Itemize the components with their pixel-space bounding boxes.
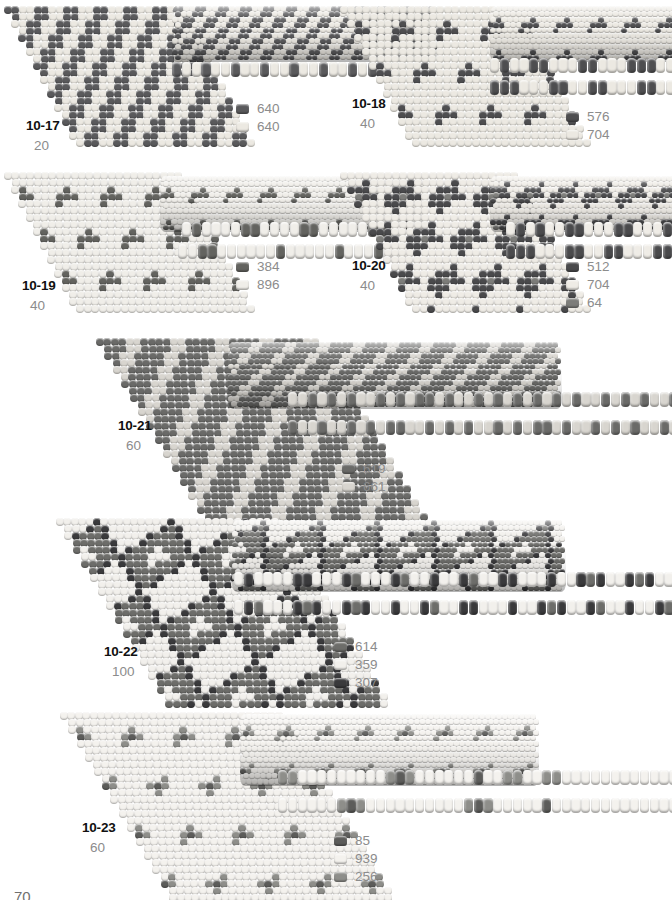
- sequence-bead: [558, 80, 567, 95]
- legend-color-swatch: [566, 280, 579, 290]
- bead-sequence-strip-10-18-0: [490, 58, 672, 73]
- bead-row: [56, 616, 411, 623]
- sequence-bead: [627, 80, 636, 95]
- bead: [217, 139, 225, 147]
- sequence-bead: [601, 798, 610, 813]
- sequence-bead: [578, 80, 587, 95]
- sequence-bead: [529, 58, 538, 73]
- sequence-bead: [425, 770, 434, 785]
- sequence-bead: [545, 244, 554, 259]
- bead-row: [96, 464, 447, 471]
- legend-row: 614: [334, 638, 378, 656]
- sequence-bead: [542, 770, 551, 785]
- legend-10-21: 619661: [342, 460, 386, 496]
- bead-sequence-strip-10-22-0: [234, 572, 672, 587]
- legend-color-swatch: [334, 872, 347, 882]
- sequence-bead: [329, 222, 338, 237]
- sequence-bead: [611, 420, 620, 435]
- sequence-bead: [273, 600, 282, 615]
- legend-color-swatch: [566, 262, 579, 272]
- sequence-bead: [503, 392, 512, 407]
- sequence-bead: [643, 222, 652, 237]
- tube-bead-row: [232, 563, 566, 568]
- sequence-bead: [260, 222, 269, 237]
- sequence-bead: [351, 572, 360, 587]
- sequence-bead: [410, 600, 419, 615]
- sequence-bead: [617, 58, 626, 73]
- sequence-bead: [234, 600, 243, 615]
- sequence-bead: [302, 572, 311, 587]
- sequence-bead: [286, 244, 295, 259]
- tube-bead-row: [240, 757, 539, 762]
- legend-row: 619: [342, 460, 386, 478]
- sequence-bead: [527, 600, 536, 615]
- legend-row: 704: [566, 126, 610, 144]
- sequence-bead: [361, 572, 370, 587]
- bead: [384, 894, 392, 900]
- sequence-bead: [288, 420, 297, 435]
- sequence-bead: [198, 244, 207, 259]
- sequence-bead: [500, 80, 509, 95]
- sequence-bead: [623, 244, 632, 259]
- sequence-bead: [630, 420, 639, 435]
- legend-color-swatch: [566, 112, 579, 122]
- legend-bead-count: 896: [257, 278, 280, 292]
- sequence-bead: [581, 392, 590, 407]
- legend-color-swatch: [334, 836, 347, 846]
- sequence-bead: [266, 244, 275, 259]
- sequence-bead: [356, 392, 365, 407]
- sequence-bead: [415, 392, 424, 407]
- sequence-bead: [366, 798, 375, 813]
- sequence-bead: [617, 80, 626, 95]
- sequence-bead: [361, 600, 370, 615]
- sequence-bead: [523, 798, 532, 813]
- sequence-bead: [415, 770, 424, 785]
- sequence-bead: [342, 600, 351, 615]
- bead-row: [4, 90, 272, 97]
- sequence-bead: [552, 392, 561, 407]
- sequence-bead: [611, 798, 620, 813]
- sequence-bead: [500, 58, 509, 73]
- sequence-bead: [371, 600, 380, 615]
- sequence-bead: [474, 420, 483, 435]
- sequence-bead: [231, 222, 240, 237]
- sequence-bead: [532, 798, 541, 813]
- sequence-bead: [276, 244, 285, 259]
- legend-row: 939: [334, 850, 378, 868]
- sequence-bead: [391, 572, 400, 587]
- sequence-bead: [523, 392, 532, 407]
- sequence-bead: [621, 420, 630, 435]
- bead-row: [4, 97, 272, 104]
- sequence-bead: [604, 244, 613, 259]
- sequence-bead: [526, 244, 535, 259]
- sequence-bead: [464, 420, 473, 435]
- sequence-bead: [346, 770, 355, 785]
- sequence-bead: [663, 222, 672, 237]
- sequence-bead: [513, 798, 522, 813]
- sequence-bead: [256, 244, 265, 259]
- bead: [247, 305, 255, 313]
- sequence-bead: [309, 222, 318, 237]
- sequence-bead: [474, 798, 483, 813]
- sequence-bead: [376, 770, 385, 785]
- bead-row: [96, 499, 447, 506]
- sequence-bead: [558, 58, 567, 73]
- sequence-bead: [650, 798, 659, 813]
- sequence-bead: [283, 600, 292, 615]
- legend-color-swatch: [236, 122, 249, 132]
- sequence-bead: [332, 600, 341, 615]
- sequence-bead: [606, 572, 615, 587]
- sequence-bead: [614, 222, 623, 237]
- sequence-bead: [640, 798, 649, 813]
- sequence-bead: [488, 600, 497, 615]
- sequence-bead: [513, 420, 522, 435]
- sequence-bead: [493, 420, 502, 435]
- sequence-bead: [400, 572, 409, 587]
- legend-10-17: 640640: [236, 100, 280, 136]
- sequence-bead: [598, 80, 607, 95]
- sequence-bead: [611, 770, 620, 785]
- legend-bead-count: 384: [257, 260, 280, 274]
- sequence-bead: [627, 58, 636, 73]
- sequence-bead: [533, 392, 542, 407]
- sequence-bead: [329, 62, 338, 77]
